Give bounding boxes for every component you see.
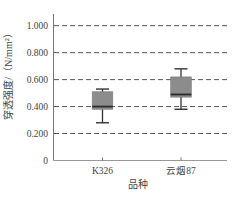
boxes [92, 69, 191, 123]
box-2 [171, 69, 192, 109]
x-tick-label: 云烟87 [166, 165, 196, 176]
box-1 [92, 89, 113, 123]
y-tick-label: 0.800 [27, 48, 49, 58]
y-axis-title: 穿透强度/（N/mm²） [2, 28, 14, 119]
y-tick-label: 1.000 [27, 21, 49, 31]
y-tick-label: 0.400 [27, 102, 49, 112]
gridlines [54, 26, 229, 134]
x-tick-label: K326 [92, 166, 113, 176]
box-plot-chart: 00.2000.4000.6000.8001.000 K326云烟87 品种 穿… [0, 0, 242, 198]
y-tick-label: 0.600 [27, 75, 49, 85]
y-axis-ticks: 00.2000.4000.6000.8001.000 [27, 21, 49, 166]
x-axis-title: 品种 [128, 178, 148, 190]
y-tick-label: 0 [43, 156, 48, 166]
y-tick-label: 0.200 [27, 129, 49, 139]
